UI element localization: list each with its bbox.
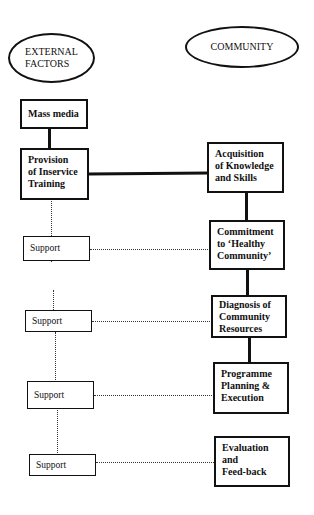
dotted-support-1-to-commitment	[90, 249, 210, 250]
support-label-1: Support	[30, 243, 60, 254]
support-box-1: Support	[23, 236, 90, 261]
commitment-box: Commitment to ‘Healthy Community’	[209, 220, 285, 270]
community-header: COMMUNITY	[185, 26, 299, 68]
support-box-2: Support	[25, 310, 92, 332]
support-label-2: Support	[32, 316, 62, 327]
support-box-4: Support	[29, 454, 96, 476]
support-label-3: Support	[34, 390, 64, 401]
dotted-support-2-to-diagnosis	[92, 321, 212, 322]
commitment-label: Commitment to ‘Healthy Community’	[217, 226, 277, 262]
planning-box: Programme Planning & Execution	[213, 362, 289, 414]
dotted-support-2-to-support-3	[55, 332, 56, 382]
planning-label: Programme Planning & Execution	[221, 368, 281, 404]
connector-mass-media-to-training	[48, 128, 51, 150]
external-factors-header: EXTERNAL FACTORS	[8, 33, 95, 83]
acquisition-label: Acquisition of Knowledge and Skills	[215, 148, 276, 184]
community-label: COMMUNITY	[211, 41, 274, 53]
mass-media-box: Mass media	[20, 99, 88, 129]
dotted-support-4-to-evaluation	[96, 462, 214, 463]
evaluation-label: Evaluation and Feed-back	[222, 442, 282, 478]
support-box-3: Support	[27, 381, 94, 409]
support-label-4: Support	[36, 460, 66, 471]
diagnosis-label: Diagnosis of Community Resources	[219, 299, 279, 335]
connector-commitment-to-diagnosis	[246, 268, 249, 298]
dotted-support-3-to-planning	[94, 395, 214, 396]
evaluation-box: Evaluation and Feed-back	[214, 436, 290, 487]
external-factors-label: EXTERNAL FACTORS	[25, 46, 78, 70]
diagnosis-box: Diagnosis of Community Resources	[211, 295, 287, 338]
mass-media-label: Mass media	[28, 108, 79, 120]
inservice-training-label: Provision of Inservice Training	[28, 154, 81, 190]
dotted-support-3-to-support-4	[57, 408, 58, 455]
connector-training-to-acquisition	[88, 171, 210, 175]
inservice-training-box: Provision of Inservice Training	[20, 148, 89, 200]
acquisition-box: Acquisition of Knowledge and Skills	[207, 142, 284, 193]
